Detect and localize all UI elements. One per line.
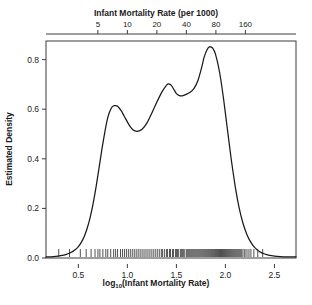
tick-label: 160 <box>239 20 253 29</box>
tick-label: 40 <box>182 20 191 29</box>
density-plot-figure: Infant Mortality Rate (per 1000) Estimat… <box>0 0 312 305</box>
tick-label: 20 <box>152 20 161 29</box>
x-axis-ticks: 0.51.01.52.02.5 <box>72 264 280 280</box>
top-axis-ticks: 510204080160 <box>46 20 296 34</box>
tick-label: 0.4 <box>27 154 39 164</box>
density-curve <box>46 47 296 257</box>
plot-frame <box>46 41 296 258</box>
tick-label: 5 <box>96 20 101 29</box>
rug-plot <box>59 249 263 257</box>
tick-label: 0.5 <box>72 270 84 280</box>
tick-label: 1.5 <box>170 270 182 280</box>
tick-label: 80 <box>211 20 220 29</box>
tick-label: 0.8 <box>27 55 39 65</box>
tick-label: 0.6 <box>27 104 39 114</box>
tick-label: 2.5 <box>269 270 281 280</box>
tick-label: 0.2 <box>27 203 39 213</box>
chart-canvas: 510204080160 0.51.01.52.02.5 0.00.20.40.… <box>0 0 312 305</box>
tick-label: 0.0 <box>27 253 39 263</box>
y-axis-ticks: 0.00.20.40.60.8 <box>27 55 46 263</box>
tick-label: 1.0 <box>121 270 133 280</box>
tick-label: 10 <box>123 20 132 29</box>
tick-label: 2.0 <box>219 270 231 280</box>
